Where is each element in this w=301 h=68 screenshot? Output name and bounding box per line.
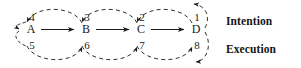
intention-arc-number-4: 4 [25,11,39,23]
node-c: C [133,23,149,36]
node-a: A [23,23,39,36]
intention-arc-number-1: 1 [190,11,204,23]
node-d: D [188,23,204,36]
row-label-execution: Execution [226,43,276,56]
diagram-figure: A B C D 4 3 2 1 5 6 7 8 Intention Execut… [0,0,301,68]
intention-arc-number-2: 2 [135,11,149,23]
execution-arc-number-8: 8 [190,39,204,51]
row-label-intention: Intention [226,15,272,28]
execution-arc-number-6: 6 [80,39,94,51]
diagram-canvas [0,0,301,68]
execution-arc-number-5: 5 [25,39,39,51]
node-b: B [78,23,94,36]
intention-arc-number-3: 3 [80,11,94,23]
execution-arc-number-7: 7 [135,39,149,51]
